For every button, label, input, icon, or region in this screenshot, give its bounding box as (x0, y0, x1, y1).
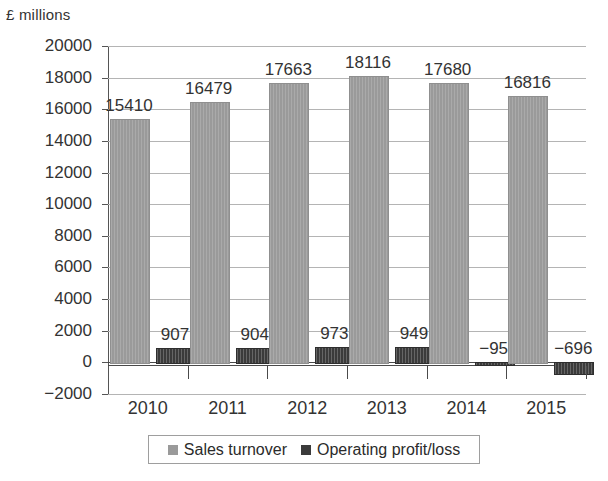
x-category-label-2015: 2015 (506, 398, 586, 419)
x-tick-mark (427, 366, 428, 379)
legend-label: Operating profit/loss (317, 441, 460, 459)
y-tick-label: 0 (0, 352, 92, 372)
bar-group-2014: 17680−95 (427, 46, 507, 394)
x-category-label-2013: 2013 (347, 398, 427, 419)
y-tick-label: 6000 (0, 257, 92, 277)
bar-label-sales-2012: 17663 (255, 60, 321, 80)
bar-chart: £ millions 20000180001600014000120001000… (0, 0, 608, 481)
x-tick-mark (506, 366, 507, 379)
x-category-label-2012: 2012 (267, 398, 347, 419)
bar-label-sales-2015: 16816 (494, 73, 560, 93)
y-tick-label: 12000 (0, 163, 92, 183)
y-tick-label: 8000 (0, 226, 92, 246)
legend-item-operating-profit-loss[interactable]: Operating profit/loss (301, 441, 460, 459)
bar-label-sales-2013: 18116 (335, 53, 401, 73)
y-tick-label: 18000 (0, 68, 92, 88)
bar-sales-2012[interactable] (269, 83, 309, 364)
bar-label-sales-2014: 17680 (415, 60, 481, 80)
x-category-label-2014: 2014 (427, 398, 507, 419)
y-tick-label: 2000 (0, 321, 92, 341)
y-tick-label: 20000 (0, 36, 92, 56)
gridline--2000 (108, 394, 586, 395)
y-tick-label: 14000 (0, 131, 92, 151)
bar-group-2012: 17663973 (267, 46, 347, 394)
legend-swatch-icon (168, 445, 178, 455)
legend-item-sales-turnover[interactable]: Sales turnover (168, 441, 287, 459)
bar-label-sales-2011: 16479 (176, 79, 242, 99)
bar-profit-2015[interactable] (554, 362, 594, 375)
legend-label: Sales turnover (184, 441, 287, 459)
bar-sales-2015[interactable] (508, 96, 548, 364)
plot-area: 1541090716479904176639731811694917680−95… (108, 46, 586, 394)
bar-sales-2013[interactable] (349, 76, 389, 365)
chart-legend: Sales turnoverOperating profit/loss (148, 435, 480, 464)
bar-group-2015: 16816−696 (506, 46, 586, 394)
bar-label-sales-2010: 15410 (96, 96, 162, 116)
x-tick-mark (267, 366, 268, 379)
bar-sales-2014[interactable] (429, 83, 469, 365)
y-tick-label: 4000 (0, 289, 92, 309)
y-tick-label: 10000 (0, 194, 92, 214)
y-tick-label: 16000 (0, 99, 92, 119)
x-tick-mark (586, 366, 587, 379)
bar-group-2011: 16479904 (188, 46, 268, 394)
y-axis-label: £ millions (6, 6, 71, 23)
x-tick-mark (347, 366, 348, 379)
bar-group-2013: 18116949 (347, 46, 427, 394)
bar-label-profit-2015: −696 (540, 339, 606, 359)
x-tick-mark (188, 366, 189, 379)
y-tick-label: −2000 (0, 384, 92, 404)
x-category-label-2011: 2011 (188, 398, 268, 419)
x-category-label-2010: 2010 (108, 398, 188, 419)
legend-swatch-icon (301, 445, 311, 455)
